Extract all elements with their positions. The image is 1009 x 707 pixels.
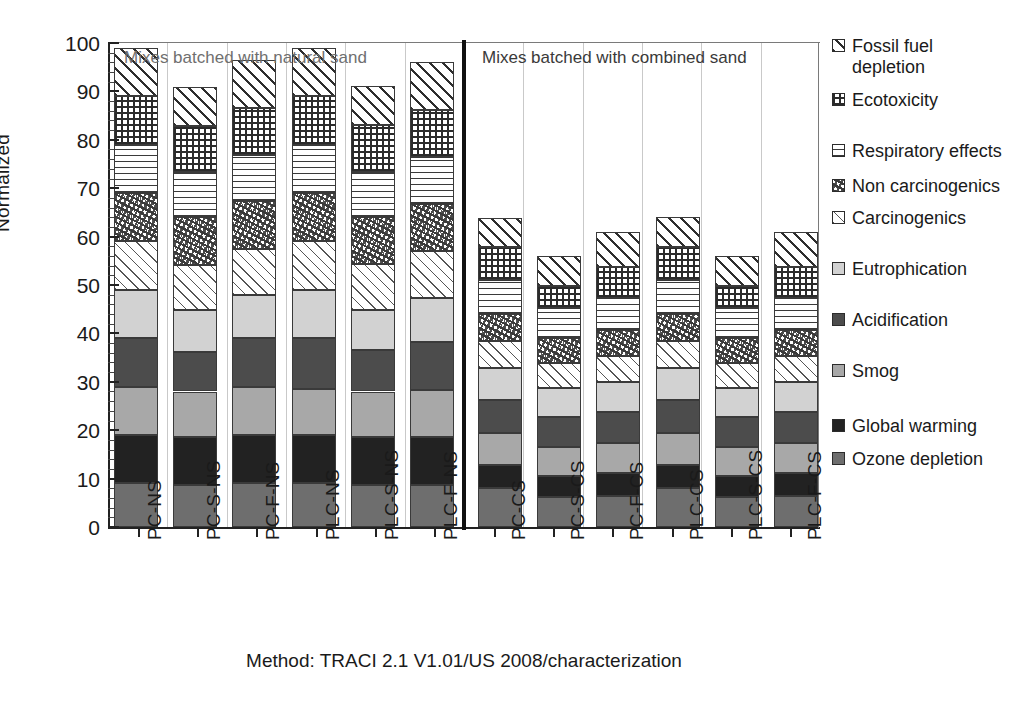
y-minor-tick [108, 314, 114, 315]
bar-segment-respiratory-effects [715, 308, 759, 338]
chart-figure: Normalized 1009080706050403020100 Mixes … [0, 0, 1009, 707]
legend-swatch-eutro-icon [832, 262, 845, 275]
y-minor-tick [108, 295, 114, 296]
y-tick-label-90: 90 [54, 81, 100, 102]
bar-segment-respiratory-effects [292, 145, 336, 193]
legend-item-resp[interactable]: Respiratory effects [832, 141, 1009, 162]
legend-item-eutro[interactable]: Eutrophication [832, 259, 1009, 280]
y-minor-tick [108, 53, 114, 54]
y-tick-label-80: 80 [54, 129, 100, 150]
legend-item-noncarc[interactable]: Non carcinogenics [832, 176, 1009, 197]
x-tick-label-pc-ns: PC-NS [144, 480, 166, 540]
x-tick-mark [138, 527, 140, 537]
legend-swatch-resp-icon [832, 144, 845, 157]
y-tick-mark [108, 332, 119, 334]
bar-segment-acidification [351, 350, 395, 392]
bar-segment-smog [410, 390, 454, 436]
x-tick-mark [316, 527, 318, 537]
x-tick-mark [612, 527, 614, 537]
legend-label-acid: Acidification [852, 310, 948, 331]
bar-segment-smog [232, 387, 276, 435]
bar-segment-acidification [537, 417, 581, 447]
bar-segment-eutrophication [351, 310, 395, 350]
y-minor-tick [108, 120, 114, 121]
legend-label-fossil: Fossil fuel depletion [852, 36, 1009, 78]
bar-segment-ecotoxicity [292, 96, 336, 144]
y-minor-tick [108, 498, 114, 499]
y-tick-mark [108, 429, 119, 431]
x-tick-mark [790, 527, 792, 537]
x-tick-mark [197, 527, 199, 537]
bar-segment-ecotoxicity [774, 267, 818, 298]
annotation-combined-sand: Mixes batched with combined sand [482, 48, 747, 68]
legend-item-ozone[interactable]: Ozone depletion [832, 449, 1009, 470]
bar-segment-respiratory-effects [596, 298, 640, 330]
bar-segment-non-carcinogenics [537, 338, 581, 363]
y-minor-tick [108, 508, 114, 509]
bar-segment-non-carcinogenics [715, 338, 759, 363]
y-tick-label-100: 100 [54, 33, 100, 54]
method-caption: Method: TRACI 2.1 V1.01/US 2008/characte… [108, 650, 820, 672]
bar-segment-smog [478, 433, 522, 465]
bar-segment-carcinogenics [114, 241, 158, 289]
y-minor-tick [108, 353, 114, 354]
bar-segment-acidification [410, 342, 454, 390]
y-tick-label-70: 70 [54, 178, 100, 199]
bar-segment-eutrophication [478, 368, 522, 400]
bar-segment-acidification [114, 338, 158, 386]
legend-label-smog: Smog [852, 361, 899, 382]
y-minor-tick [108, 208, 114, 209]
bar-segment-ecotoxicity [656, 247, 700, 280]
bar-pc-ns[interactable] [114, 48, 158, 527]
x-tick-mark [434, 527, 436, 537]
bar-segment-fossil-fuel-depletion [656, 217, 700, 247]
bar-segment-smog [292, 389, 336, 435]
bar-pc-f-ns[interactable] [232, 60, 276, 527]
bar-segment-eutrophication [173, 310, 217, 352]
legend-item-fossil[interactable]: Fossil fuel depletion [832, 36, 1009, 78]
legend-item-ecotox[interactable]: Ecotoxicity [832, 90, 1009, 111]
bar-segment-carcinogenics [596, 356, 640, 382]
x-tick-mark [375, 527, 377, 537]
bar-segment-non-carcinogenics [656, 314, 700, 342]
bar-plc-ns[interactable] [292, 48, 336, 527]
legend-swatch-noncarc-icon [832, 179, 845, 192]
bar-segment-respiratory-effects [774, 298, 818, 330]
x-tick-mark [731, 527, 733, 537]
legend-label-gw: Global warming [852, 416, 977, 437]
bar-segment-non-carcinogenics [596, 330, 640, 356]
y-tick-mark [108, 478, 119, 480]
bar-segment-fossil-fuel-depletion [774, 232, 818, 267]
y-tick-mark [108, 284, 119, 286]
legend-item-gw[interactable]: Global warming [832, 416, 1009, 437]
legend-item-carc[interactable]: Carcinogenics [832, 208, 1009, 229]
y-tick-mark [108, 381, 119, 383]
y-tick-label-60: 60 [54, 226, 100, 247]
x-tick-label-plc-s-cs: PLC-S-CS [745, 450, 767, 540]
bar-segment-fossil-fuel-depletion [478, 218, 522, 247]
y-minor-tick [108, 82, 114, 83]
y-minor-tick [108, 101, 114, 102]
legend-item-smog[interactable]: Smog [832, 361, 1009, 382]
bar-segment-acidification [173, 352, 217, 392]
bar-segment-carcinogenics [478, 341, 522, 368]
y-tick-label-30: 30 [54, 371, 100, 392]
bar-segment-eutrophication [656, 368, 700, 400]
bar-segment-smog [656, 433, 700, 465]
bar-segment-non-carcinogenics [410, 204, 454, 251]
y-tick-mark [108, 90, 119, 92]
y-minor-tick [108, 149, 114, 150]
legend-label-ecotox: Ecotoxicity [852, 90, 938, 111]
bar-segment-acidification [478, 400, 522, 433]
bar-segment-eutrophication [774, 382, 818, 412]
bar-segment-fossil-fuel-depletion [173, 87, 217, 126]
y-minor-tick [108, 198, 114, 199]
bar-segment-respiratory-effects [232, 155, 276, 201]
bar-segment-carcinogenics [410, 251, 454, 297]
legend-item-acid[interactable]: Acidification [832, 310, 1009, 331]
y-tick-mark [108, 139, 119, 141]
bar-segment-fossil-fuel-depletion [537, 256, 581, 286]
x-tick-label-plc-f-cs: PLC-F-CS [804, 451, 826, 540]
y-minor-tick [108, 256, 114, 257]
y-minor-tick [108, 372, 114, 373]
